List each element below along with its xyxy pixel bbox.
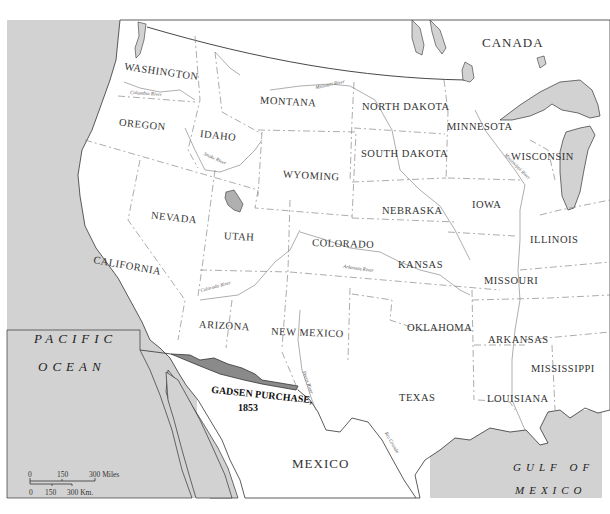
- label-illinois: ILLINOIS: [530, 234, 578, 245]
- label-north-dakota: NORTH DAKOTA: [362, 101, 450, 112]
- label-nebraska: NEBRASKA: [382, 205, 443, 216]
- label-iowa: IOWA: [472, 199, 501, 210]
- map-canvas: [0, 0, 610, 514]
- label-minnesota: MINNESOTA: [447, 121, 513, 132]
- label-oklahoma: OKLAHOMA: [407, 322, 472, 333]
- label-wisconsin: WISCONSIN: [511, 151, 574, 162]
- label-mississippi: MISSISSIPPI: [531, 363, 595, 374]
- scale-km-0: 0: [29, 488, 33, 497]
- label-missouri: MISSOURI: [484, 275, 538, 286]
- label-kansas: KANSAS: [398, 259, 443, 270]
- label-arkansas: ARKANSAS: [488, 334, 549, 345]
- label-colorado: COLORADO: [312, 237, 375, 250]
- label-canada: CANADA: [482, 35, 544, 51]
- label-gulf-line2: MEXICO: [515, 484, 587, 496]
- scale-miles-0: 0: [28, 470, 32, 479]
- label-gadsen-year: 1853: [238, 402, 258, 413]
- label-pacific-line1: PACIFIC: [34, 331, 117, 347]
- scale-km-150: 150: [45, 488, 56, 497]
- label-utah: UTAH: [224, 230, 255, 243]
- label-texas: TEXAS: [399, 392, 435, 403]
- scale-km-300: 300 Km.: [67, 488, 93, 497]
- label-louisiana: LOUISIANA: [487, 393, 549, 404]
- scale-miles-150: 150: [57, 470, 68, 479]
- label-pacific-line2: OCEAN: [38, 359, 106, 375]
- label-south-dakota: SOUTH DAKOTA: [361, 148, 448, 159]
- scale-miles-300: 300 Miles: [89, 470, 119, 479]
- label-gulf-line1: GULF OF: [513, 461, 594, 473]
- label-mexico: MEXICO: [292, 456, 349, 472]
